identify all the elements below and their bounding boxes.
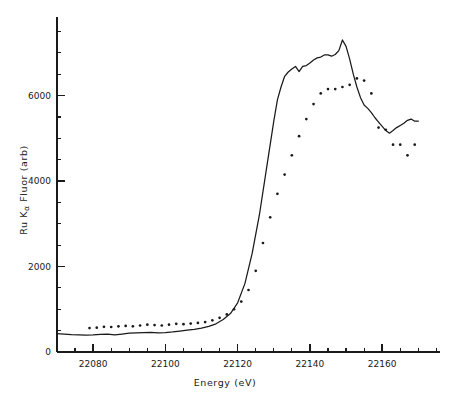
data-point-marker bbox=[139, 324, 142, 327]
x-axis-ticks bbox=[57, 344, 436, 352]
data-point-marker bbox=[218, 316, 221, 319]
data-point-marker bbox=[384, 128, 387, 131]
data-point-marker bbox=[392, 143, 395, 146]
x-tick-label: 22120 bbox=[223, 359, 252, 369]
data-point-marker bbox=[153, 324, 156, 327]
data-point-marker bbox=[283, 173, 286, 176]
data-point-marker bbox=[334, 88, 337, 91]
x-tick-label: 22140 bbox=[296, 359, 325, 369]
data-point-marker bbox=[327, 88, 330, 91]
data-point-marker bbox=[110, 326, 113, 329]
data-point-marker bbox=[370, 92, 373, 95]
data-point-marker bbox=[399, 143, 402, 146]
data-point-marker bbox=[124, 325, 127, 328]
solid-line-series bbox=[57, 40, 418, 335]
data-point-marker bbox=[211, 319, 214, 322]
y-tick-label: 4000 bbox=[28, 176, 51, 186]
y-tick-label: 2000 bbox=[28, 262, 51, 272]
data-point-marker bbox=[363, 79, 366, 82]
data-point-marker bbox=[298, 135, 301, 138]
data-point-marker bbox=[95, 326, 98, 329]
data-point-marker bbox=[240, 300, 243, 303]
data-point-marker bbox=[305, 118, 308, 121]
data-point-marker bbox=[254, 269, 257, 272]
xafs-spectrum-plot: 2208022100221202214022160 0200040006000 … bbox=[0, 0, 450, 400]
x-axis-label: Energy (eV) bbox=[194, 377, 257, 388]
data-point-marker bbox=[146, 323, 149, 326]
x-tick-label: 22080 bbox=[79, 359, 108, 369]
data-point-marker bbox=[413, 143, 416, 146]
data-point-marker bbox=[225, 313, 228, 316]
data-point-marker bbox=[189, 322, 192, 325]
data-point-marker bbox=[182, 323, 185, 326]
y-tick-label: 6000 bbox=[28, 91, 51, 101]
data-point-marker bbox=[312, 103, 315, 106]
x-tick-label: 22160 bbox=[368, 359, 397, 369]
data-point-marker bbox=[132, 325, 135, 328]
y-axis-label: Ru Kα Fluor (arb) bbox=[18, 145, 31, 235]
y-tick-label: 0 bbox=[45, 347, 51, 357]
data-point-marker bbox=[88, 327, 91, 330]
data-point-marker bbox=[348, 83, 351, 86]
data-point-marker bbox=[197, 322, 200, 325]
data-point-marker bbox=[262, 242, 265, 245]
data-point-marker bbox=[341, 86, 344, 89]
data-point-marker bbox=[117, 325, 120, 328]
data-point-marker bbox=[406, 154, 409, 157]
data-point-marker bbox=[175, 322, 178, 325]
data-point-marker bbox=[291, 154, 294, 157]
y-axis-label-suffix: Fluor (arb) bbox=[18, 145, 29, 205]
data-point-marker bbox=[103, 325, 106, 328]
dotted-marker-series bbox=[88, 77, 416, 329]
chart-figure: 2208022100221202214022160 0200040006000 … bbox=[0, 0, 450, 400]
data-point-marker bbox=[356, 77, 359, 80]
data-point-marker bbox=[160, 324, 163, 327]
data-point-marker bbox=[204, 321, 207, 324]
y-axis-tick-labels: 0200040006000 bbox=[28, 91, 51, 357]
x-tick-label: 22100 bbox=[151, 359, 180, 369]
data-point-marker bbox=[377, 126, 380, 129]
data-point-marker bbox=[233, 308, 236, 311]
data-point-marker bbox=[247, 289, 250, 292]
x-axis-tick-labels: 2208022100221202214022160 bbox=[79, 359, 397, 369]
data-point-marker bbox=[276, 192, 279, 195]
data-point-marker bbox=[269, 216, 272, 219]
data-point-marker bbox=[168, 323, 171, 326]
data-point-marker bbox=[319, 92, 322, 95]
y-axis-label-prefix: Ru K bbox=[18, 211, 29, 235]
y-axis-ticks bbox=[57, 31, 65, 352]
